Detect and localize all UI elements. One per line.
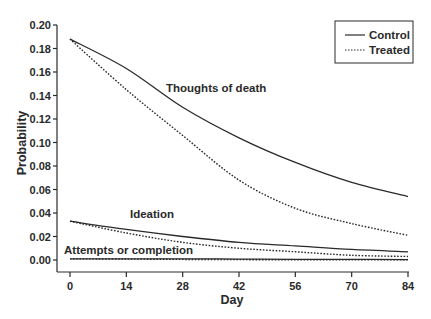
attempts-or-completion-control-line [70,259,408,260]
thoughts-of-death-label: Thoughts of death [166,82,266,94]
x-ticks: 0142842567084 [67,272,415,292]
x-tick-label: 42 [233,280,245,292]
y-tick-label: 0.06 [30,184,51,196]
legend-box [335,21,413,63]
attempts-or-completion-label: Attempts or completion [64,244,193,256]
y-axis-title: Probability [15,111,29,176]
y-tick-label: 0.12 [30,113,51,125]
curve-annotations: Thoughts of deathIdeationAttempts or com… [64,82,266,256]
y-tick-label: 0.16 [30,66,51,78]
x-axis-title: Day [221,293,244,307]
y-tick-label: 0.04 [30,207,52,219]
ideation-label: Ideation [130,208,174,220]
x-tick-label: 70 [346,280,358,292]
y-tick-label: 0.00 [30,254,51,266]
y-ticks: 0.000.020.040.060.080.100.120.140.160.18… [30,19,57,266]
legend-treated-label: Treated [369,44,410,56]
legend-control-label: Control [369,29,410,41]
y-tick-label: 0.10 [30,137,51,149]
line-chart: 0.000.020.040.060.080.100.120.140.160.18… [0,0,431,319]
x-tick-label: 56 [289,280,301,292]
x-tick-label: 0 [67,280,73,292]
y-tick-label: 0.02 [30,231,51,243]
y-tick-label: 0.14 [30,90,52,102]
series-lines [70,39,408,260]
x-tick-label: 84 [402,280,415,292]
y-tick-label: 0.08 [30,160,51,172]
legend: Control Treated [335,21,413,63]
x-tick-label: 28 [177,280,189,292]
y-tick-label: 0.20 [30,19,51,31]
x-tick-label: 14 [120,280,133,292]
y-tick-label: 0.18 [30,43,51,55]
